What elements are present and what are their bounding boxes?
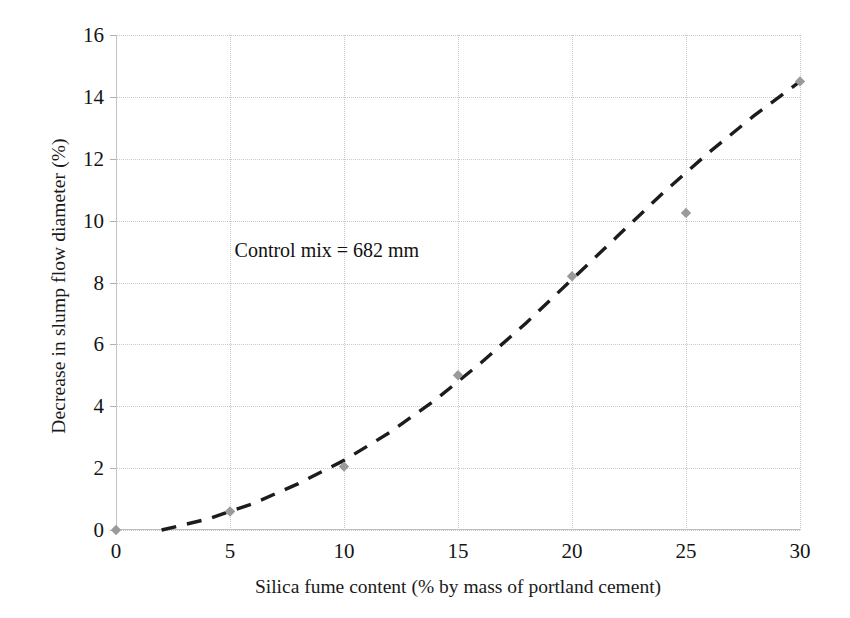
data-point-markers [111, 76, 805, 535]
plot-area: 0246810121416 051015202530 Control mix =… [116, 35, 800, 530]
data-point-marker [111, 525, 121, 535]
y-axis-title: Decrease in slump flow diameter (%) [48, 16, 82, 556]
y-axis-tick-label: 2 [94, 456, 105, 481]
x-axis-tick-label: 0 [111, 539, 122, 564]
chart-figure: Decrease in slump flow diameter (%) 0246… [0, 0, 850, 618]
x-axis-tick-label: 10 [334, 539, 355, 564]
gridline-vertical [800, 35, 801, 530]
data-series-layer [116, 35, 800, 530]
data-point-marker [567, 271, 577, 281]
y-axis-tick-label: 8 [94, 270, 105, 295]
y-axis-tick-label: 6 [94, 332, 105, 357]
trend-line [162, 81, 800, 530]
data-point-marker [681, 208, 691, 218]
control-mix-annotation: Control mix = 682 mm [235, 239, 420, 262]
x-axis-tick-label: 15 [448, 539, 469, 564]
y-axis-tick-label: 12 [83, 146, 104, 171]
x-axis-tick-label: 30 [790, 539, 811, 564]
y-axis-tick-label: 14 [83, 84, 104, 109]
y-axis-tick-label: 0 [94, 518, 105, 543]
y-axis-tick-label: 4 [94, 394, 105, 419]
x-axis-tick-label: 25 [676, 539, 697, 564]
x-axis-title: Silica fume content (% by mass of portla… [116, 576, 800, 598]
gridline-horizontal [116, 530, 800, 531]
y-axis-tick-label: 10 [83, 208, 104, 233]
data-point-marker [225, 506, 235, 516]
x-axis-tick-label: 20 [562, 539, 583, 564]
x-axis-tick-label: 5 [225, 539, 236, 564]
y-axis-tick-label: 16 [83, 23, 104, 48]
